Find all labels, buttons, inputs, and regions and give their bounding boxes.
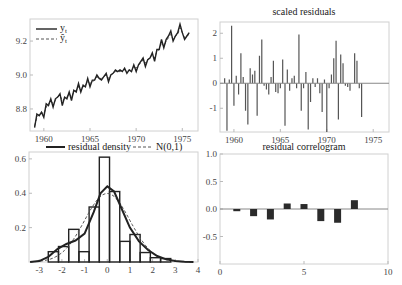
x-tick-label: 0 [105, 265, 110, 275]
density-axis-ticks: -3-2-1012340.20.40.6 [15, 154, 201, 275]
histogram-bars [48, 157, 170, 262]
x-tick-label: 1975 [364, 135, 383, 145]
density-legend: residual density N(0,1) [46, 141, 182, 153]
correlogram-bar [317, 209, 324, 221]
correlogram-bar [284, 204, 291, 210]
y-tick-label: 0.2 [15, 223, 26, 233]
y-tick-label: 0.6 [15, 154, 27, 164]
histogram-bar [79, 252, 89, 262]
y-tick-label: 0.4 [15, 188, 27, 198]
correlogram-axis-ticks: 0510-0.50.00.51.0 [203, 149, 393, 277]
y-tick-label: 9.2 [16, 36, 27, 46]
x-tick-label: 1960 [225, 135, 244, 145]
y-tick-label: 1 [213, 53, 218, 63]
y-tick-label: 1.0 [206, 149, 218, 159]
correlogram-bar [301, 204, 308, 209]
y-tick-label: 9.0 [16, 70, 28, 80]
residuals-plot-frame [220, 22, 389, 132]
x-tick-label: 1960 [35, 134, 54, 144]
actual-solid-line [35, 24, 190, 128]
correlogram-title: residual correlogram [262, 141, 345, 152]
scaled-residuals-panel: scaled residuals 1960196519701975-1012 [210, 6, 390, 145]
x-tick-label: 3 [173, 265, 178, 275]
y-tick-label: 8.8 [16, 104, 28, 114]
legend-kde-label: residual density [68, 141, 131, 152]
fitted-plot-frame [30, 19, 198, 131]
histogram-bar [69, 229, 79, 262]
x-tick-label: 1 [128, 265, 133, 275]
x-tick-label: -2 [58, 265, 66, 275]
y-tick-label: -1 [210, 103, 218, 113]
chart-canvas: 19601965197019758.89.09.2 yt ŷt scaled r… [0, 0, 402, 285]
correlogram-bar [334, 209, 341, 223]
x-tick-label: -1 [81, 265, 89, 275]
correlogram-bar [233, 209, 240, 211]
histogram-bar [150, 258, 160, 262]
residual-bars [220, 26, 389, 132]
fitted-legend: yt ŷt [36, 22, 67, 45]
x-tick-label: 2 [150, 265, 155, 275]
legend-normal-label: N(0,1) [156, 141, 182, 153]
x-tick-label: -3 [35, 265, 43, 275]
x-tick-label: 0 [218, 267, 223, 277]
histogram-bar [140, 253, 150, 262]
y-tick-label: 2 [213, 28, 218, 38]
residual-correlogram-panel: residual correlogram 0510-0.50.00.51.0 [203, 141, 393, 277]
residuals-title: scaled residuals [272, 6, 335, 17]
fitted-values-panel: 19601965197019758.89.09.2 yt ŷt [16, 19, 198, 144]
x-tick-label: 4 [196, 265, 201, 275]
correlogram-bars [220, 200, 388, 223]
histogram-bar [99, 157, 109, 262]
kernel-density-curve [30, 186, 193, 262]
x-tick-label: 5 [302, 267, 307, 277]
correlogram-bar [267, 209, 274, 219]
x-tick-label: 10 [384, 267, 394, 277]
residual-density-panel: residual density N(0,1) -3-2-1012340.20.… [15, 141, 201, 275]
histogram-bar [89, 207, 99, 262]
y-tick-label: 0.5 [206, 177, 218, 187]
histogram-bar [120, 241, 130, 262]
y-tick-label: 0 [213, 78, 218, 88]
y-tick-label: 0.0 [206, 204, 218, 214]
correlogram-bar [250, 209, 257, 216]
fitted-axis-ticks: 19601965197019758.89.09.2 [16, 36, 192, 144]
correlogram-bar [351, 200, 358, 209]
y-tick-label: -0.5 [203, 232, 218, 242]
histogram-bar [130, 235, 140, 263]
density-plot-frame [29, 152, 198, 262]
